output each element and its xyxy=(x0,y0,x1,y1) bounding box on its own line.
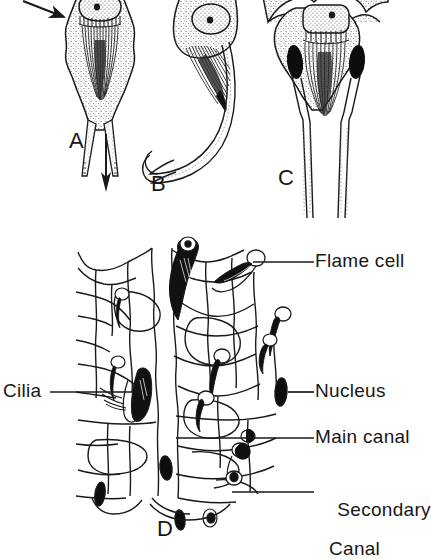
flame-cell-unit-5 xyxy=(110,356,125,400)
label-secondary-canal-line1: Secondary xyxy=(337,499,431,520)
nucleus-b xyxy=(192,4,230,34)
terminal-canal-b xyxy=(143,42,235,183)
nucleus-blob-3 xyxy=(93,481,106,506)
label-secondary-canal: Secondary Canal xyxy=(315,481,431,559)
flame-cell-unit-11 xyxy=(226,471,242,485)
panel-letter-b: B xyxy=(151,171,166,197)
panel-letter-a: A xyxy=(69,128,84,154)
nucleus-blob-2 xyxy=(159,455,173,480)
flame-cell-unit-2 xyxy=(212,250,265,292)
flame-cell-unit-12 xyxy=(241,429,255,442)
label-flame-cell: Flame cell xyxy=(315,251,405,271)
nucleus-a xyxy=(79,0,121,21)
flame-cell-unit-6 xyxy=(115,288,129,328)
nucleus-c xyxy=(303,5,349,33)
flame-cell-unit-7 xyxy=(210,349,230,398)
label-main-canal: Main canal xyxy=(315,427,410,447)
panel-letter-c: C xyxy=(278,165,294,191)
flame-cell-unit-9 xyxy=(196,391,214,432)
panel-letter-d: D xyxy=(157,516,173,542)
flame-cell-unit-4 xyxy=(123,368,152,422)
label-cilia: Cilia xyxy=(3,381,41,401)
panel-a-flame-cell xyxy=(23,0,135,192)
label-secondary-canal-line2: Canal xyxy=(315,539,431,558)
inflow-arrow-icon xyxy=(23,1,64,17)
panel-b-flame-cell xyxy=(143,0,238,183)
panel-d-canal-network xyxy=(76,237,291,530)
flame-cell-unit-3 xyxy=(269,307,291,356)
label-nucleus: Nucleus xyxy=(315,381,386,401)
